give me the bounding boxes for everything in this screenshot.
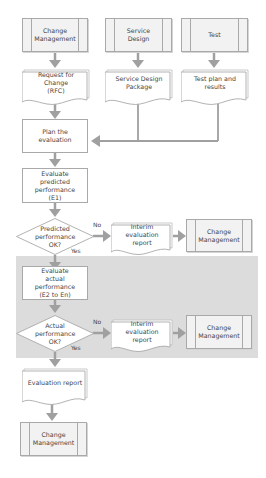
process-label: Change Management: [33, 27, 77, 43]
decision-actual-performance: Actual performance OK?: [16, 315, 94, 352]
process-change-management-final: Change Management: [20, 422, 87, 456]
branch-no-label: No: [93, 318, 101, 325]
decision-predicted-performance: Predicted performance OK?: [16, 218, 94, 255]
branch-yes-label: Yes: [71, 247, 81, 254]
document-rfc: Request for Change (RFC): [22, 69, 90, 105]
process-label: Change Management: [32, 431, 76, 447]
document-label: Service Design Package: [113, 75, 165, 91]
process-label: Test: [208, 31, 220, 39]
document-service-design-package: Service Design Package: [105, 69, 173, 105]
document-label: Request for Change (RFC): [35, 71, 77, 95]
process-service-design-input: Service Design: [105, 18, 172, 52]
step-label: Plan the evaluation: [37, 128, 73, 144]
branch-yes-label: Yes: [71, 344, 81, 351]
step-label: Evaluate actual performance (E2 to En): [34, 267, 76, 299]
step-plan-evaluation: Plan the evaluation: [22, 119, 88, 153]
document-interim-report-predicted: Interim evaluation report: [111, 222, 173, 255]
decision-label: Actual performance OK?: [35, 322, 75, 346]
process-label: Service Design: [122, 27, 156, 43]
step-evaluate-predicted: Evaluate predicted performance (E1): [22, 168, 88, 203]
process-change-management-input: Change Management: [22, 18, 88, 52]
process-label: Change Management: [197, 228, 241, 244]
process-change-management-predicted: Change Management: [186, 219, 252, 252]
document-label: Evaluation report: [26, 379, 84, 387]
process-test-input: Test: [181, 18, 248, 52]
decision-label: Predicted performance OK?: [35, 225, 75, 249]
document-evaluation-report: Evaluation report: [22, 368, 88, 406]
step-evaluate-actual: Evaluate actual performance (E2 to En): [22, 266, 88, 300]
step-label: Evaluate predicted performance (E1): [30, 170, 80, 202]
process-label: Change Management: [197, 324, 241, 340]
document-label: Test plan and results: [193, 75, 237, 91]
document-label: Interim evaluation report: [115, 320, 169, 344]
process-change-management-actual: Change Management: [186, 315, 252, 349]
document-label: Interim evaluation report: [115, 223, 169, 247]
document-test-plan-results: Test plan and results: [181, 69, 249, 105]
document-interim-report-actual: Interim evaluation report: [111, 319, 173, 352]
branch-no-label: No: [93, 221, 101, 228]
